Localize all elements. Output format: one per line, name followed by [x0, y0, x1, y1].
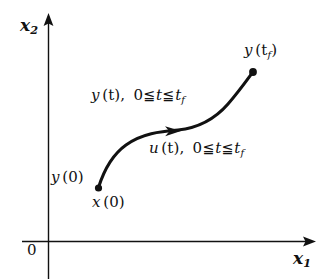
- end-point-label-close: ): [271, 41, 277, 59]
- x-axis-label-subscript: 1: [303, 256, 311, 270]
- control-annotation-comma: ,: [180, 139, 185, 157]
- trajectory-annotation-func: y: [91, 86, 99, 104]
- control-annotation-rel2: ≦: [221, 140, 234, 156]
- trajectory-annotation: y(t),0≦t≦tf: [91, 88, 185, 103]
- control-annotation-upper: t: [234, 139, 240, 157]
- x-axis-label-base: x: [293, 248, 303, 268]
- origin-label: 0: [27, 243, 37, 258]
- control-annotation-lower: 0: [193, 139, 203, 157]
- start-point-label-y-arg: (0): [62, 168, 84, 186]
- control-annotation-upper-subscript: f: [241, 147, 245, 158]
- start-point-label-y-func: y: [51, 168, 59, 186]
- control-annotation-func: u: [149, 139, 159, 157]
- start-point-label-x-func: x: [92, 193, 100, 211]
- y-axis-label-subscript: 2: [30, 23, 38, 37]
- state-trajectory-figure: x2 x1 0 y(tf) y(0) x(0) y(t),0≦t≦tf u(t)…: [0, 0, 320, 279]
- y-axis: [44, 13, 54, 279]
- control-annotation-rel1: ≦: [202, 140, 215, 156]
- x-axis-label: x1: [293, 250, 311, 267]
- trajectory-start-dot: [95, 184, 102, 191]
- trajectory-annotation-upper-subscript: f: [181, 94, 185, 105]
- end-point-label-open: (t: [255, 41, 267, 59]
- control-annotation: u(t),0≦t≦tf: [149, 141, 244, 156]
- trajectory-annotation-arg: (t): [102, 86, 120, 104]
- trajectory-annotation-rel1: ≦: [143, 87, 156, 103]
- trajectory-annotation-lower: 0: [133, 86, 143, 104]
- trajectory-annotation-rel2: ≦: [162, 87, 175, 103]
- trajectory-annotation-comma: ,: [120, 86, 125, 104]
- y-axis-label-base: x: [20, 15, 30, 35]
- start-point-label-y: y(0): [51, 170, 84, 185]
- end-point-label: y(tf): [244, 43, 277, 58]
- end-point-label-func: y: [244, 41, 252, 59]
- y-axis-label: x2: [20, 17, 38, 34]
- start-point-label-x-arg: (0): [103, 193, 125, 211]
- end-point-label-subscript: f: [268, 49, 272, 60]
- x-axis: [22, 237, 316, 247]
- trajectory-end-dot: [249, 68, 257, 76]
- start-point-label-x: x(0): [92, 195, 125, 210]
- control-annotation-arg: (t): [161, 139, 179, 157]
